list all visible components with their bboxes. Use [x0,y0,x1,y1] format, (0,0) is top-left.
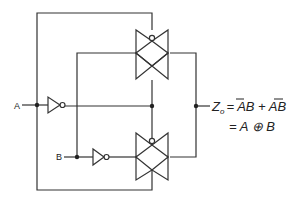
transmission-gate-top [136,30,168,79]
inverter-a [48,97,65,113]
xor-circuit-diagram: A B Zo= AB + AB = A ⊕ B [0,0,304,203]
junction-b [75,155,79,159]
inverter-b [93,149,109,165]
junction-a-not [150,104,154,108]
wire-b-to-top-gate [77,53,136,157]
wire-top-gate-output [170,53,196,157]
junction-output [194,104,198,108]
output-equation-line2: = A ⊕ B [229,119,275,134]
output-equation-line1: Zo= AB + AB [211,99,287,116]
junction-a [35,103,39,107]
input-b-label: B [56,152,62,162]
input-a-label: A [14,101,20,111]
